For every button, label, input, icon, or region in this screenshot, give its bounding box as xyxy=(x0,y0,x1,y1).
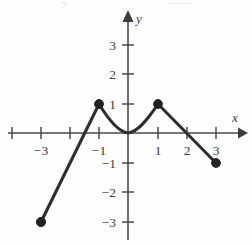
x-tick-labels: −3 −1 1 2 3 xyxy=(34,143,220,158)
y-tick-label--1: −1 xyxy=(102,156,116,171)
y-tick-label-3: 3 xyxy=(109,38,116,53)
y-tick-labels: 3 2 1 −1 −2 −3 xyxy=(102,38,117,230)
x-tick-label-1: 1 xyxy=(155,143,162,158)
curve-left-linear-segment xyxy=(41,104,99,222)
point-right-endpoint xyxy=(212,159,221,168)
point-left-endpoint xyxy=(36,217,45,226)
y-axis-name: y xyxy=(134,11,142,26)
graph-figure: y —— xyxy=(0,0,252,245)
x-axis-arrowhead xyxy=(238,128,248,139)
x-tick-label--3: −3 xyxy=(34,143,49,158)
x-tick-label-2: 2 xyxy=(184,143,191,158)
coordinate-plot: −3 −1 1 2 3 3 2 1 −1 −2 −3 x y xyxy=(0,0,252,245)
point-right-peak xyxy=(154,100,163,109)
y-tick-label-1: 1 xyxy=(109,97,116,112)
y-tick-label--3: −3 xyxy=(102,215,117,230)
point-left-peak xyxy=(95,100,104,109)
y-axis-arrowhead xyxy=(123,10,134,22)
x-tick-label-3: 3 xyxy=(213,143,220,158)
y-tick-label-2: 2 xyxy=(109,67,116,82)
y-tick-label--2: −2 xyxy=(102,185,116,200)
x-axis-name: x xyxy=(231,110,238,125)
